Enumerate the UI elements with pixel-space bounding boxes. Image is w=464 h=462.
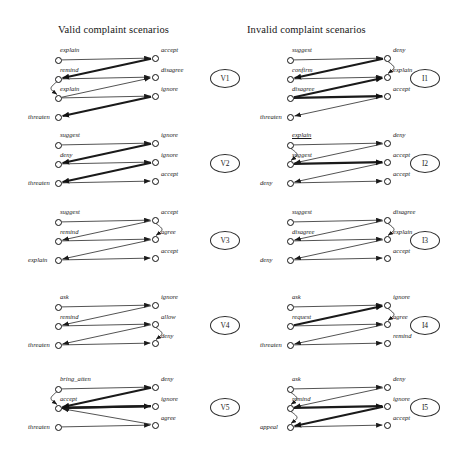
graph-node (55, 424, 62, 431)
graph-node (287, 180, 294, 187)
graph-node (384, 178, 391, 185)
scenario-badge: V3 (210, 231, 240, 250)
node-label: deny (260, 179, 272, 186)
node-label: disagree (393, 208, 415, 215)
node-label: explain (28, 256, 47, 263)
node-label: agree (161, 414, 176, 421)
graph-edge (62, 58, 150, 60)
graph-node (287, 76, 294, 83)
node-label: threaten (28, 423, 50, 430)
node-label: deny (161, 375, 173, 382)
scenario-badge: I1 (410, 69, 440, 88)
column-title-valid: Valid complaint scenarios (58, 24, 169, 35)
node-label: suggest (292, 151, 312, 158)
graph-node (384, 403, 391, 410)
graph-node (152, 93, 159, 100)
node-label: ignore (161, 395, 178, 402)
graph-edge (295, 163, 384, 182)
scenario-badge: I5 (410, 398, 440, 417)
graph-edge (295, 97, 384, 116)
graph-node (384, 217, 391, 224)
node-label: confirm (292, 66, 313, 73)
figure-canvas: Valid complaint scenarios Invalid compla… (0, 0, 464, 462)
node-label: ask (60, 293, 69, 300)
node-label: deny (393, 46, 405, 53)
node-label: ask (292, 375, 301, 382)
graph-node (384, 422, 391, 429)
node-label: threaten (28, 113, 50, 120)
graph-node (384, 321, 391, 328)
graph-node (384, 140, 391, 147)
node-label: disagree (292, 85, 314, 92)
node-label: suggest (292, 46, 312, 53)
node-label: agree (393, 313, 408, 320)
scenario-badge: V5 (210, 398, 240, 417)
graph-edge (62, 143, 150, 145)
graph-node (152, 302, 159, 309)
graph-edge (295, 325, 384, 344)
graph-node (152, 236, 159, 243)
node-label: ignore (161, 131, 178, 138)
graph-node (152, 255, 159, 262)
node-label: deny (393, 131, 405, 138)
graph-node (384, 93, 391, 100)
graph-edge (62, 258, 150, 260)
graph-node (287, 95, 294, 102)
graph-node (287, 405, 294, 412)
graph-edge (62, 406, 150, 408)
graph-edge (62, 324, 150, 326)
scenario-badge: V4 (210, 316, 240, 335)
node-label: accept (161, 170, 178, 177)
graph-edge (294, 162, 382, 164)
node-label: remind (60, 66, 78, 73)
graph-edge (294, 58, 382, 60)
graph-node (384, 384, 391, 391)
graph-edge (294, 343, 382, 345)
graph-edge (63, 406, 151, 408)
graph-node (55, 405, 62, 412)
node-label: accept (161, 208, 178, 215)
node-label: threaten (260, 113, 282, 120)
graph-node (287, 323, 294, 330)
node-label: suggest (60, 131, 80, 138)
graph-node (55, 304, 62, 311)
node-label: disagree (292, 228, 314, 235)
graph-edge (294, 77, 382, 79)
node-label: ignore (393, 395, 410, 402)
graph-edge (294, 305, 382, 307)
node-label: request (292, 313, 311, 320)
node-label: explain (60, 85, 79, 92)
graph-edge (63, 409, 152, 425)
graph-edge (294, 143, 382, 145)
graph-node (55, 142, 62, 149)
graph-node (55, 161, 62, 168)
node-label: ignore (161, 85, 178, 92)
graph-edge (62, 343, 150, 345)
graph-node (384, 74, 391, 81)
graph-node (287, 342, 294, 349)
scenario-badge: I3 (410, 231, 440, 250)
graph-node (55, 180, 62, 187)
node-label: remind (60, 228, 78, 235)
node-label: threaten (28, 179, 50, 186)
graph-node (152, 74, 159, 81)
graph-edge (62, 96, 150, 98)
node-label: remind (60, 313, 78, 320)
graph-node (287, 424, 294, 431)
graph-node (287, 386, 294, 393)
graph-edge (295, 407, 384, 426)
graph-node (152, 217, 159, 224)
node-label: remind (292, 395, 310, 402)
graph-node (55, 386, 62, 393)
graph-node (55, 257, 62, 264)
node-label: suggest (60, 208, 80, 215)
graph-edge (51, 82, 57, 95)
graph-edge (51, 392, 57, 405)
node-label: remind (393, 332, 411, 339)
node-label: bring_atten (60, 375, 91, 382)
graph-node (287, 238, 294, 245)
graph-node (287, 57, 294, 64)
node-label: explain (60, 46, 79, 53)
graph-node (55, 238, 62, 245)
node-label: accept (161, 247, 178, 254)
